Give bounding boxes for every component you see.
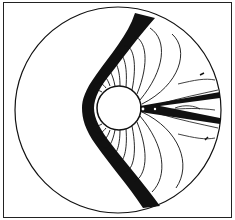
- contour-diagram: [0, 0, 235, 220]
- inner-cylinder: [97, 86, 141, 130]
